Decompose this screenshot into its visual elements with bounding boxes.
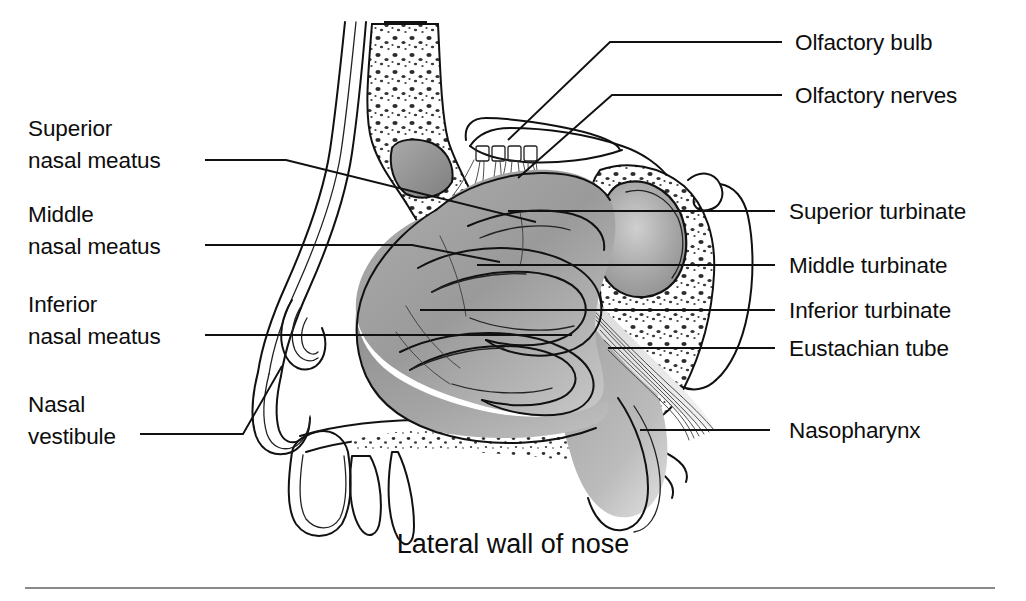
- label-nasal-vestibule-line1: Nasal: [28, 392, 85, 417]
- label-middle-nasal-meatus-line2: nasal meatus: [28, 234, 161, 259]
- label-superior-turbinate: Superior turbinate: [789, 199, 966, 224]
- figure-page: Superior nasal meatus Middle nasal meatu…: [0, 0, 1026, 601]
- label-superior-nasal-meatus-line1: Superior: [28, 116, 113, 141]
- label-nasopharynx: Nasopharynx: [789, 418, 921, 443]
- label-eustachian-tube: Eustachian tube: [789, 336, 949, 361]
- label-olfactory-nerves: Olfactory nerves: [795, 83, 957, 108]
- label-middle-nasal-meatus-line1: Middle: [28, 202, 94, 227]
- label-middle-turbinate: Middle turbinate: [789, 253, 948, 278]
- label-inferior-nasal-meatus-line2: nasal meatus: [28, 324, 161, 349]
- label-olfactory-bulb: Olfactory bulb: [795, 30, 932, 55]
- lateral-wall-of-nose-illustration: Superior nasal meatus Middle nasal meatu…: [0, 0, 1026, 601]
- figure-caption: Lateral wall of nose: [397, 529, 630, 559]
- label-nasal-vestibule-line2: vestibule: [28, 424, 116, 449]
- label-inferior-nasal-meatus-line1: Inferior: [28, 292, 98, 317]
- label-inferior-turbinate: Inferior turbinate: [789, 298, 951, 323]
- label-superior-nasal-meatus-line2: nasal meatus: [28, 148, 161, 173]
